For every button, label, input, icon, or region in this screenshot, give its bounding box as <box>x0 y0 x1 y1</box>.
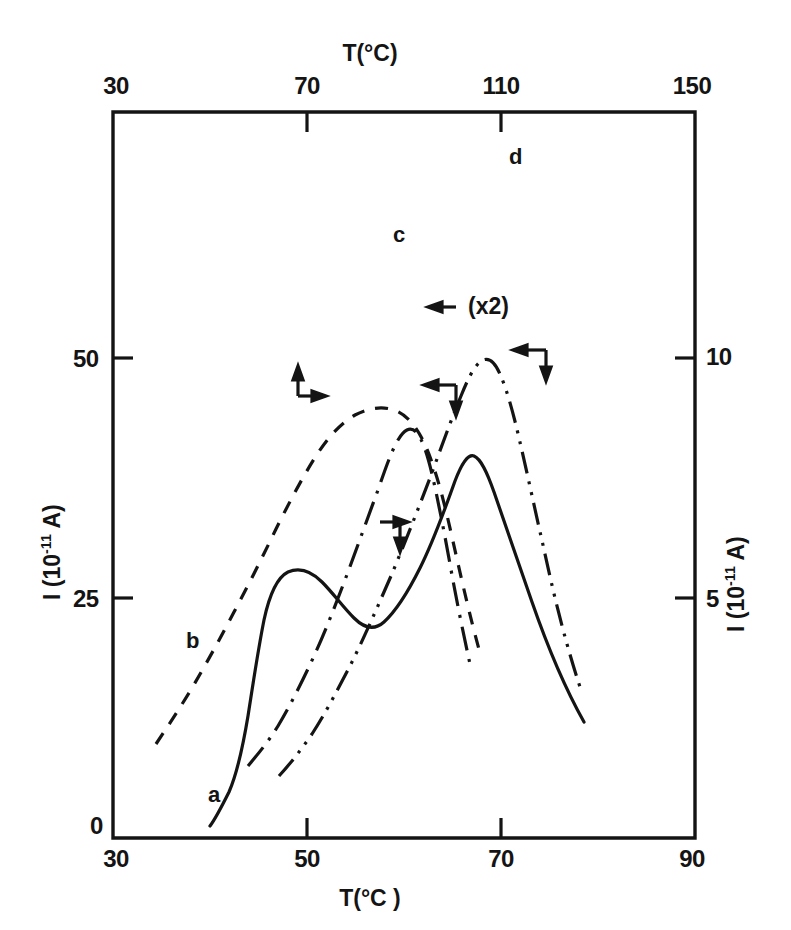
left-axis-exponent: -11 <box>38 534 54 554</box>
bottom-tick-label-1: 50 <box>294 845 320 873</box>
top-tick-label-0: 30 <box>103 72 129 100</box>
curve-a <box>210 456 584 826</box>
figure-panel: T(°C) 30 70 110 150 30 50 70 90 T(°C ) 5… <box>0 0 791 930</box>
curve-label-c: c <box>393 222 405 248</box>
top-tick-label-3: 150 <box>673 72 712 100</box>
axis-pointer-c-arrow <box>424 380 461 416</box>
annotation-arrows <box>293 302 551 552</box>
curve-b <box>156 408 480 744</box>
curve-d <box>279 359 581 776</box>
plot-frame <box>113 112 695 838</box>
x2-annotation: (x2) <box>468 293 509 320</box>
right-axis-exponent: -11 <box>722 566 738 586</box>
bottom-axis-ticks <box>307 818 501 838</box>
right-axis-ticks <box>675 358 695 598</box>
top-axis-ticks <box>307 112 501 132</box>
bottom-tick-label-3: 90 <box>679 845 705 873</box>
top-tick-label-1: 70 <box>294 72 320 100</box>
top-tick-label-2: 110 <box>482 72 519 100</box>
bottom-tick-label-2: 70 <box>488 845 514 873</box>
plot-canvas <box>0 0 791 930</box>
curve-label-a: a <box>208 782 220 808</box>
x2-arrow <box>428 302 456 312</box>
right-axis-title: I (10-11 A) <box>722 536 750 632</box>
top-axis-title: T(°C) <box>342 40 397 67</box>
curve-label-d: d <box>509 144 522 170</box>
right-tick-label-5: 5 <box>706 585 719 613</box>
axis-pointer-b-arrow <box>293 366 326 401</box>
bottom-axis-title: T(°C ) <box>339 885 401 912</box>
left-tick-label-25: 25 <box>73 585 99 613</box>
axis-pointer-d-arrow <box>513 345 551 381</box>
left-tick-label-0: 0 <box>90 812 103 840</box>
left-axis-title: I (10-11 A) <box>38 504 66 600</box>
left-tick-label-50: 50 <box>73 345 99 373</box>
bottom-tick-label-0: 30 <box>103 845 129 873</box>
curve-label-b: b <box>186 628 199 654</box>
left-axis-ticks <box>113 358 133 598</box>
right-tick-label-10: 10 <box>706 343 732 371</box>
